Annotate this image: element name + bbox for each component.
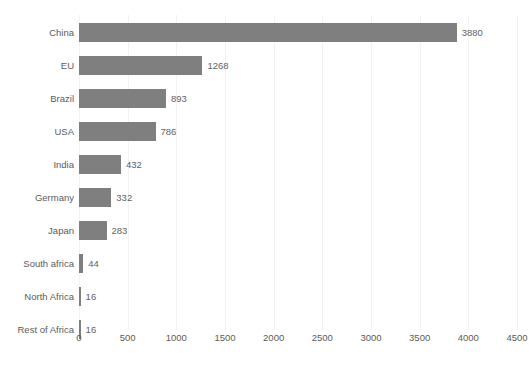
bar-value-label: 1268 <box>202 56 228 75</box>
bar[interactable] <box>79 56 202 75</box>
category-label: USA <box>54 122 74 141</box>
x-tick-label: 3000 <box>360 332 381 343</box>
bar[interactable] <box>79 122 156 141</box>
gridline <box>517 15 518 330</box>
bar[interactable] <box>79 89 166 108</box>
x-tick-label: 2000 <box>263 332 284 343</box>
plot-area: 38801268893786432332283441616 <box>79 15 517 330</box>
bar-row: 44 <box>79 254 517 273</box>
bar-value-label: 3880 <box>457 23 483 42</box>
bar-row: 786 <box>79 122 517 141</box>
x-tick-label: 2500 <box>312 332 333 343</box>
bar-value-label: 16 <box>81 287 97 306</box>
x-tick-label: 3500 <box>409 332 430 343</box>
x-tick-label: 1000 <box>166 332 187 343</box>
category-label: Germany <box>35 188 74 207</box>
bar-row: 1268 <box>79 56 517 75</box>
bar-value-label: 332 <box>111 188 132 207</box>
category-label: Rest of Africa <box>18 320 75 339</box>
x-tick-label: 4500 <box>506 332 527 343</box>
x-tick-label: 500 <box>120 332 136 343</box>
bar-row: 332 <box>79 188 517 207</box>
chart-title <box>0 0 529 12</box>
bar[interactable] <box>79 188 111 207</box>
category-label: Brazil <box>50 89 74 108</box>
bar-row: 3880 <box>79 23 517 42</box>
bar[interactable] <box>79 23 457 42</box>
bar-row: 16 <box>79 287 517 306</box>
bar-row: 432 <box>79 155 517 174</box>
category-label: EU <box>61 56 74 75</box>
bar[interactable] <box>79 155 121 174</box>
bar-row: 283 <box>79 221 517 240</box>
bar-value-label: 893 <box>166 89 187 108</box>
bar-value-label: 786 <box>156 122 177 141</box>
x-tick-label: 0 <box>76 332 81 343</box>
bar-chart: 38801268893786432332283441616 ChinaEUBra… <box>0 0 529 366</box>
category-label: Japan <box>48 221 74 240</box>
bar-value-label: 283 <box>107 221 128 240</box>
x-axis: 050010001500200025003000350040004500 <box>79 332 517 352</box>
x-tick-label: 4000 <box>458 332 479 343</box>
category-label: India <box>53 155 74 174</box>
category-label: China <box>49 23 74 42</box>
bar[interactable] <box>79 221 107 240</box>
x-tick-label: 1500 <box>214 332 235 343</box>
bar-value-label: 432 <box>121 155 142 174</box>
bar-row: 893 <box>79 89 517 108</box>
bar-value-label: 44 <box>83 254 99 273</box>
category-label: North Africa <box>24 287 74 306</box>
category-label: South africa <box>23 254 74 273</box>
